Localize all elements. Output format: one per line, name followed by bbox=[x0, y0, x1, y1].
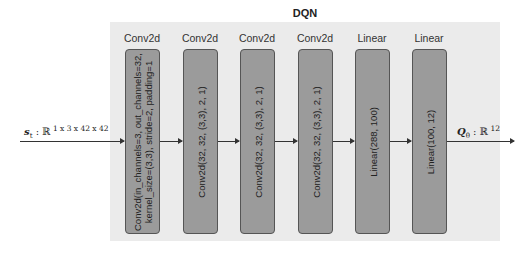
output-space: ℝ bbox=[480, 126, 488, 137]
layer-box-2-text: Conv2d(32, 32, (3,3), 2, 1) bbox=[195, 86, 206, 197]
input-space: ℝ bbox=[42, 126, 50, 137]
output-subscript: θ bbox=[466, 132, 470, 140]
diagram-title: DQN bbox=[280, 7, 330, 19]
layer-type-5: Linear bbox=[344, 32, 400, 44]
layer-type-2: Conv2d bbox=[172, 32, 228, 44]
layer-box-4: Conv2d(32, 32, (3,3), 2, 1) bbox=[298, 49, 333, 234]
layer-box-6-text: Linear(100, 12) bbox=[424, 109, 435, 173]
layer-box-4-text: Conv2d(32, 32, (3,3), 2, 1) bbox=[310, 86, 321, 197]
input-dims: 1 x 3 x 42 x 42 bbox=[53, 124, 109, 133]
input-subscript: t bbox=[30, 132, 33, 140]
output-symbol: Q bbox=[457, 126, 466, 137]
output-dims: 12 bbox=[490, 124, 500, 133]
output-arrow bbox=[447, 141, 514, 142]
layer-box-5: Linear(288, 100) bbox=[355, 49, 390, 234]
arrow-1-2 bbox=[160, 141, 182, 142]
layer-box-1: Conv2d(in_channels=3, out_channels=32,ke… bbox=[125, 49, 160, 234]
arrow-2-3 bbox=[218, 141, 239, 142]
input-label: st : ℝ 1 x 3 x 42 x 42 bbox=[24, 124, 109, 140]
layer-1-line2: kernel_size=(3,3), stride=2, padding=1 bbox=[143, 53, 154, 231]
layer-box-2: Conv2d(32, 32, (3,3), 2, 1) bbox=[183, 49, 218, 234]
arrow-4-5 bbox=[333, 141, 354, 142]
layer-type-1: Conv2d bbox=[114, 32, 170, 44]
output-label: Qθ : ℝ 12 bbox=[457, 124, 500, 140]
layer-box-3-text: Conv2d(32, 32, (3,3), 2, 1) bbox=[252, 86, 263, 197]
arrow-3-4 bbox=[275, 141, 297, 142]
input-arrow bbox=[20, 141, 124, 142]
layer-type-3: Conv2d bbox=[229, 32, 285, 44]
layer-box-1-text: Conv2d(in_channels=3, out_channels=32,ke… bbox=[132, 53, 154, 231]
layer-box-6: Linear(100, 12) bbox=[412, 49, 447, 234]
layer-type-6: Linear bbox=[401, 32, 457, 44]
layer-box-5-text: Linear(288, 100) bbox=[367, 107, 378, 177]
arrow-5-6 bbox=[390, 141, 411, 142]
layer-type-4: Conv2d bbox=[287, 32, 343, 44]
layer-box-3: Conv2d(32, 32, (3,3), 2, 1) bbox=[240, 49, 275, 234]
layer-1-line1: Conv2d(in_channels=3, out_channels=32, bbox=[132, 53, 143, 231]
